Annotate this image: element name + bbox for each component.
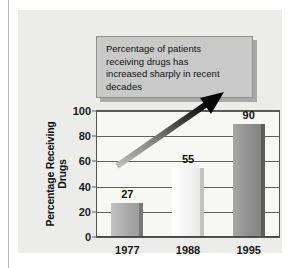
- callout-box: Percentage of patients receiving drugs h…: [96, 36, 253, 98]
- y-tick-label: 20: [79, 206, 91, 218]
- bar-value-label: 55: [182, 153, 194, 165]
- bar: 27: [111, 203, 143, 237]
- bar: 55: [172, 168, 204, 237]
- left-margin-rule: [8, 0, 9, 268]
- y-tick-mark: [92, 111, 97, 112]
- y-tick-label: 0: [85, 231, 91, 243]
- bar-right-edge: [200, 168, 204, 237]
- chart-figure: Percentage of patients receiving drugs h…: [0, 0, 298, 268]
- bar-value-label: 27: [121, 188, 133, 200]
- x-axis-baseline: [97, 236, 279, 237]
- plot-area: 020406080100 275590 197719881995: [96, 110, 280, 238]
- callout-text: Percentage of patients receiving drugs h…: [106, 43, 248, 93]
- y-tick-mark: [92, 186, 97, 187]
- x-tick-label: 1995: [236, 244, 260, 256]
- bar: 90: [233, 124, 265, 237]
- y-axis-title: Percentage Receiving Drugs: [44, 110, 58, 238]
- x-tick-label: 1977: [115, 244, 139, 256]
- y-tick-label: 40: [79, 181, 91, 193]
- y-tick-mark: [92, 211, 97, 212]
- y-tick-label: 60: [79, 155, 91, 167]
- y-tick-label: 80: [79, 130, 91, 142]
- x-tick-label: 1988: [176, 244, 200, 256]
- bar-value-label: 90: [243, 109, 255, 121]
- y-tick-mark: [92, 161, 97, 162]
- y-tick-mark: [92, 136, 97, 137]
- figure-panel: Percentage of patients receiving drugs h…: [18, 10, 282, 253]
- bar-right-edge: [261, 124, 265, 237]
- bar-right-edge: [139, 203, 143, 237]
- y-tick-label: 100: [73, 105, 91, 117]
